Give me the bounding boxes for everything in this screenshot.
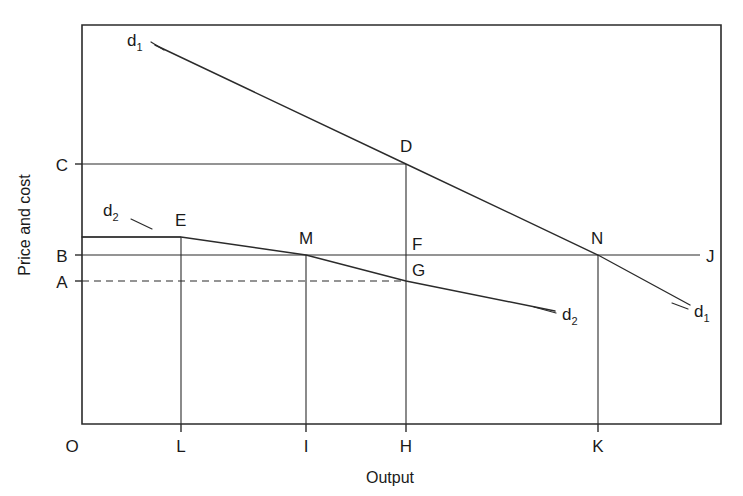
curve-label-d2-lower-right: d2 bbox=[562, 305, 578, 327]
y-axis-tick-labels: C B A bbox=[56, 156, 68, 292]
curve-label-d1-lower-right: d1 bbox=[694, 302, 710, 324]
y-axis-ticks bbox=[75, 164, 82, 281]
diagram-canvas: d1 d1 d2 d2 D E M F G N J C B A bbox=[0, 0, 743, 496]
quantity-drop-lines bbox=[181, 164, 598, 424]
leader-d2-upper bbox=[131, 219, 152, 229]
demand-curve-d2 bbox=[82, 237, 555, 311]
point-labels: D E M F G N J bbox=[175, 137, 715, 280]
x-axis-title: Output bbox=[366, 469, 415, 486]
x-axis-tick-labels: O L I H K bbox=[65, 437, 604, 456]
curve-label-d1-upper-left: d1 bbox=[127, 31, 143, 53]
x-tick-label-K: K bbox=[592, 437, 604, 456]
x-tick-label-I: I bbox=[304, 437, 309, 456]
y-tick-label-A: A bbox=[56, 273, 68, 292]
point-label-M: M bbox=[299, 229, 313, 248]
point-label-E: E bbox=[175, 211, 186, 230]
curve-label-d2-upper-left: d2 bbox=[103, 201, 119, 223]
y-tick-label-C: C bbox=[56, 156, 68, 175]
point-label-G: G bbox=[412, 261, 425, 280]
y-axis-title: Price and cost bbox=[16, 174, 33, 276]
leader-d1-upper bbox=[151, 42, 164, 50]
curve-label-leaders bbox=[131, 42, 688, 313]
y-tick-label-B: B bbox=[56, 247, 67, 266]
x-tick-label-O: O bbox=[65, 437, 78, 456]
point-label-D: D bbox=[400, 137, 412, 156]
x-tick-label-L: L bbox=[176, 437, 185, 456]
x-tick-label-H: H bbox=[400, 437, 412, 456]
point-label-N: N bbox=[591, 229, 603, 248]
x-axis-ticks bbox=[181, 424, 598, 432]
leader-d1-lower bbox=[672, 303, 688, 309]
point-label-J: J bbox=[706, 247, 715, 266]
economics-diagram: d1 d1 d2 d2 D E M F G N J C B A bbox=[0, 0, 743, 496]
point-label-F: F bbox=[412, 235, 422, 254]
